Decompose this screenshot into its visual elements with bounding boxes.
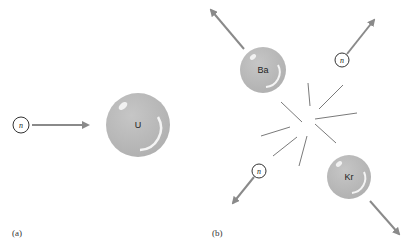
incoming-neutron: n (13, 117, 29, 133)
energy-burst (261, 83, 357, 166)
krypton-label: Kr (345, 172, 354, 182)
neutron-label: n (257, 167, 261, 176)
emitted-neutron-2: n (252, 164, 266, 178)
panel-a: n U (a) (12, 93, 170, 238)
fission-diagram: n U (a) Ba n (0, 0, 410, 251)
barium-arrow (211, 10, 244, 49)
barium-nucleus: Ba (240, 47, 286, 93)
neutron-label: n (19, 121, 23, 130)
krypton-arrow (370, 201, 399, 234)
barium-label: Ba (257, 65, 268, 75)
panel-a-label: (a) (12, 228, 22, 238)
panel-b: Ba n n Kr (211, 10, 399, 238)
emitted-neutron-1: n (335, 53, 349, 67)
uranium-nucleus: U (106, 93, 170, 157)
neutron-label: n (340, 56, 344, 65)
neutron-arrow-up-right (347, 20, 374, 54)
panel-b-label: (b) (212, 228, 223, 238)
uranium-label: U (135, 120, 142, 130)
neutron-arrow-down-left (233, 177, 254, 203)
krypton-nucleus: Kr (327, 155, 371, 199)
